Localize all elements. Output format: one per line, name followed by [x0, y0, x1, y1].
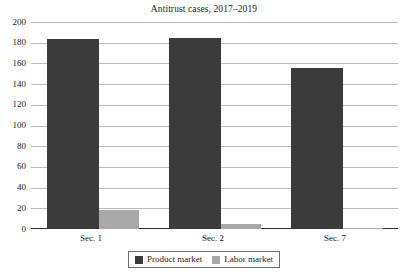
bar-product-market-sec-7[interactable]	[291, 68, 343, 230]
x-axis-label-sec-7: Sec. 7	[285, 233, 385, 243]
y-axis-tick-0: 0	[0, 225, 26, 234]
y-axis-tick-140: 140	[0, 80, 26, 89]
legend-entry-product-market[interactable]: Product market	[135, 255, 202, 264]
y-axis-tick-160: 160	[0, 59, 26, 68]
y-axis-tick-120: 120	[0, 100, 26, 109]
bar-labor-market-sec-1[interactable]	[99, 210, 139, 229]
y-axis-tick-180: 180	[0, 38, 26, 47]
plot-area	[31, 22, 398, 229]
legend-swatch-product-market-icon	[135, 256, 143, 264]
y-axis-tick-200: 200	[0, 18, 26, 27]
gridline-200	[31, 22, 398, 23]
y-axis-tick-20: 20	[0, 204, 26, 213]
y-axis-tick-80: 80	[0, 142, 26, 151]
y-axis-tick-40: 40	[0, 183, 26, 192]
chart-container: Antitrust cases, 2017–2019 200 180 160 1…	[0, 0, 408, 279]
bar-product-market-sec-1[interactable]	[47, 39, 99, 229]
bar-labor-market-sec-7[interactable]	[343, 228, 383, 229]
legend-entry-labor-market[interactable]: Labor market	[212, 255, 273, 264]
y-axis-tick-100: 100	[0, 121, 26, 130]
bar-labor-market-sec-2[interactable]	[221, 224, 261, 229]
x-axis-label-sec-2: Sec. 2	[163, 233, 263, 243]
legend-label-labor-market: Labor market	[224, 255, 273, 264]
y-axis-tick-60: 60	[0, 162, 26, 171]
legend-label-product-market: Product market	[147, 255, 202, 264]
x-axis-label-sec-1: Sec. 1	[41, 233, 141, 243]
chart-legend: Product market Labor market	[128, 251, 280, 268]
bar-product-market-sec-2[interactable]	[169, 38, 221, 230]
chart-title: Antitrust cases, 2017–2019	[0, 4, 408, 14]
legend-swatch-labor-market-icon	[212, 256, 220, 264]
